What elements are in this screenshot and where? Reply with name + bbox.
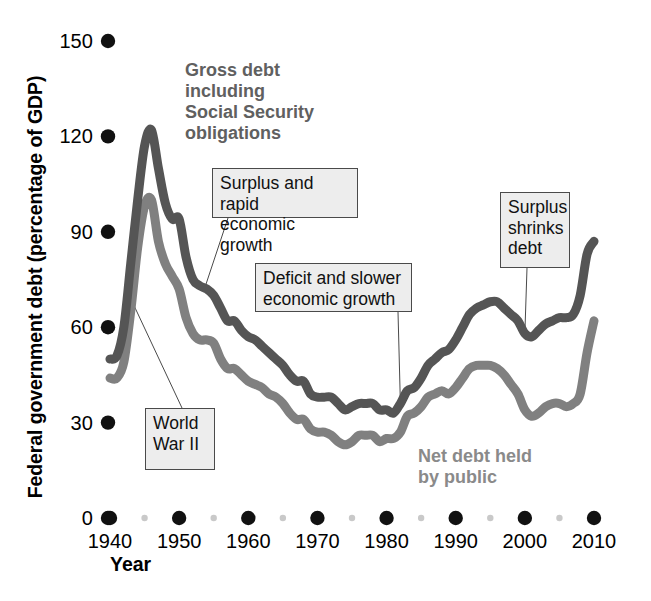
x-tick-dot-major	[449, 511, 463, 525]
x-tick-dot-major	[518, 511, 532, 525]
y-tick-label: 60	[33, 316, 93, 339]
x-tick-dot-minor	[280, 515, 286, 521]
x-tick-dot-minor	[141, 515, 147, 521]
callout-deficit-slower-growth: Deficit and slower economic growth	[255, 263, 412, 312]
x-tick-label: 1980	[347, 530, 427, 553]
y-tick-dot	[101, 415, 115, 429]
x-tick-dot-major	[172, 511, 186, 525]
x-tick-dot-minor	[211, 515, 217, 521]
x-axis-title: Year	[110, 553, 151, 576]
callout-surplus-shrinks-debt: Surplus shrinks debt	[500, 192, 570, 268]
x-tick-dot-major	[379, 511, 393, 525]
y-tick-label: 150	[33, 30, 93, 53]
x-tick-label: 2010	[554, 530, 634, 553]
callout-leader-line-3	[525, 268, 527, 334]
x-axis-minor-tick-dots	[141, 515, 562, 521]
y-tick-dot	[101, 225, 115, 239]
x-tick-dot-major	[241, 511, 255, 525]
x-tick-dot-major	[587, 511, 601, 525]
y-tick-dot	[101, 34, 115, 48]
x-tick-label: 1970	[277, 530, 357, 553]
x-tick-dot-minor	[418, 515, 424, 521]
callout-leader-line-2	[398, 312, 400, 404]
x-tick-dot-minor	[487, 515, 493, 521]
series-label-net-debt: Net debt held by public	[418, 446, 532, 488]
y-tick-dot	[101, 511, 115, 525]
y-tick-label: 0	[33, 507, 93, 530]
callout-surplus-rapid-growth: Surplus and rapid economic growth	[212, 168, 358, 218]
x-tick-dot-minor	[556, 515, 562, 521]
callout-world-war-ii: World War II	[145, 408, 215, 470]
x-tick-label: 1960	[208, 530, 288, 553]
y-tick-dot	[101, 320, 115, 334]
y-tick-label: 30	[33, 412, 93, 435]
x-tick-label: 1940	[70, 530, 150, 553]
x-tick-label: 2000	[485, 530, 565, 553]
chart-figure: Federal government debt (percentage of G…	[0, 0, 651, 601]
y-tick-label: 90	[33, 221, 93, 244]
y-axis-tick-dots	[101, 34, 115, 525]
y-tick-label: 120	[33, 125, 93, 148]
x-tick-label: 1950	[139, 530, 219, 553]
x-tick-dot-minor	[349, 515, 355, 521]
x-tick-dot-major	[310, 511, 324, 525]
x-tick-label: 1990	[416, 530, 496, 553]
y-axis-title: Federal government debt (percentage of G…	[24, 27, 54, 547]
y-tick-dot	[101, 129, 115, 143]
callout-leader-line-0	[131, 299, 182, 408]
series-label-gross-debt: Gross debt including Social Security obl…	[185, 60, 314, 144]
